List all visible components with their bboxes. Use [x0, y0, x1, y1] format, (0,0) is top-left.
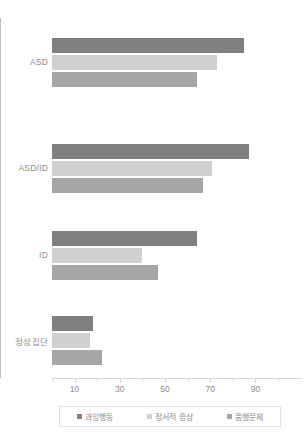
bar-fill: [52, 316, 93, 331]
bar-ID-과잉행동: [52, 231, 197, 246]
x-tick-minor: [142, 378, 143, 382]
x-tick-minor: [52, 378, 53, 382]
x-tick-major: [165, 378, 166, 383]
x-tick-minor: [278, 378, 279, 382]
legend-item[interactable]: 품행문제: [227, 411, 263, 422]
bar-ASD-과잉행동: [52, 38, 244, 53]
bar-fill: [52, 265, 158, 280]
x-tick-major: [255, 378, 256, 383]
bar-ASD-정서적 증상: [52, 55, 217, 70]
x-tick-label: 50: [150, 384, 180, 394]
y-axis-line: [0, 18, 1, 378]
x-tick-label: 10: [60, 384, 90, 394]
x-tick-major: [75, 378, 76, 383]
bar-fill: [52, 231, 197, 246]
bar-ASD-ID-정서적 증상: [52, 161, 212, 176]
x-tick-label: 70: [195, 384, 225, 394]
legend-item[interactable]: 정서적 증상: [147, 411, 192, 422]
bar-fill: [52, 248, 142, 263]
bar-fill: [52, 72, 197, 87]
category-label-ASD: ASD: [30, 57, 48, 67]
bar-ASD-ID-품행문제: [52, 178, 203, 193]
bar-fill: [52, 161, 212, 176]
legend-item[interactable]: 과잉행동: [77, 411, 113, 422]
legend-label: 과잉행동: [85, 411, 113, 422]
bar-정상집단-과잉행동: [52, 316, 93, 331]
x-tick-minor: [97, 378, 98, 382]
bar-chart: ASDASD/IDID정상집단 1030507090 과잉행동 정서적 증상 품…: [0, 0, 304, 446]
chart-legend: 과잉행동 정서적 증상 품행문제: [59, 406, 281, 427]
legend-swatch-icon: [227, 414, 232, 419]
bar-ID-정서적 증상: [52, 248, 142, 263]
bar-fill: [52, 144, 249, 159]
bar-fill: [52, 55, 217, 70]
bar-ID-품행문제: [52, 265, 158, 280]
x-tick-minor: [233, 378, 234, 382]
bar-ASD-품행문제: [52, 72, 197, 87]
bar-fill: [52, 350, 102, 365]
x-tick-label: 90: [240, 384, 270, 394]
bar-fill: [52, 333, 90, 348]
x-axis-line: [52, 378, 302, 379]
x-tick-major: [120, 378, 121, 383]
bar-정상집단-정서적 증상: [52, 333, 90, 348]
legend-swatch-icon: [147, 414, 152, 419]
legend-swatch-icon: [77, 414, 82, 419]
bar-fill: [52, 178, 203, 193]
legend-label: 품행문제: [235, 411, 263, 422]
x-tick-major: [210, 378, 211, 383]
bar-fill: [52, 38, 244, 53]
category-label-ID: ID: [39, 250, 48, 260]
bar-정상집단-품행문제: [52, 350, 102, 365]
category-label-정상집단: 정상집단: [15, 335, 48, 347]
x-tick-minor: [188, 378, 189, 382]
x-tick-label: 30: [105, 384, 135, 394]
bar-ASD-ID-과잉행동: [52, 144, 249, 159]
category-label-ASD-ID: ASD/ID: [18, 163, 48, 173]
legend-label: 정서적 증상: [155, 411, 192, 422]
